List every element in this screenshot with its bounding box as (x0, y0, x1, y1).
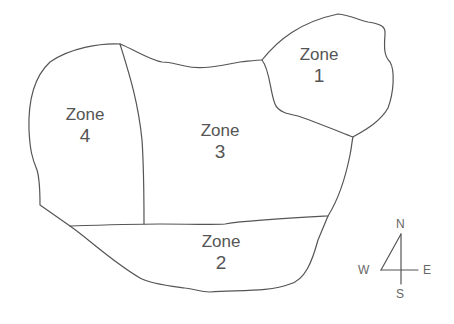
zone-3-number: 3 (180, 141, 260, 162)
zone-2-word: Zone (202, 232, 241, 251)
compass-diagonal-line (381, 234, 401, 270)
zone-4-number: 4 (45, 125, 125, 146)
zone-3-word: Zone (201, 121, 240, 140)
compass-east-label: E (423, 264, 431, 276)
zone-3-top-boundary (120, 44, 262, 68)
zone-4-word: Zone (66, 105, 105, 124)
zone-1-word: Zone (300, 45, 339, 64)
zone-4-label: Zone 4 (45, 104, 125, 146)
zone-2-label: Zone 2 (181, 231, 261, 273)
zone-map (0, 0, 454, 324)
zone-1-label: Zone 1 (279, 44, 359, 86)
compass-west-label: W (358, 264, 369, 276)
zone-3-label: Zone 3 (180, 120, 260, 162)
compass-rose (381, 234, 418, 284)
zone-2-top-divider (70, 216, 328, 226)
zone-1-number: 1 (279, 65, 359, 86)
compass-south-label: S (396, 288, 404, 300)
zone-2-number: 2 (181, 252, 261, 273)
compass-north-label: N (396, 218, 405, 230)
